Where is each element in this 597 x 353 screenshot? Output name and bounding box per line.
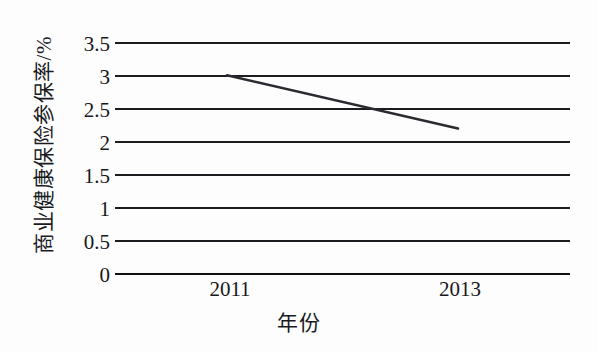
- y-tick-label: 0: [5, 265, 110, 286]
- y-tick-label: 1: [5, 199, 110, 220]
- series-segment: [227, 75, 458, 128]
- data-series-line: [115, 42, 570, 275]
- y-tick-label: 1.5: [5, 166, 110, 187]
- x-tick-label-2013: 2013: [405, 279, 515, 300]
- y-tick-label: 3: [5, 67, 110, 88]
- y-tick-label: 0.5: [5, 232, 110, 253]
- chart-figure: 商业健康保险参保率/% 0 0.5 1 1.5 2 2.5 3 3.5 2011…: [0, 0, 597, 353]
- plot-area: [115, 42, 570, 275]
- x-tick-label-2011: 2011: [175, 279, 285, 300]
- y-tick-label: 3.5: [5, 34, 110, 55]
- y-tick-label: 2.5: [5, 100, 110, 121]
- y-tick-label: 2: [5, 133, 110, 154]
- x-axis-title: 年份: [0, 306, 597, 336]
